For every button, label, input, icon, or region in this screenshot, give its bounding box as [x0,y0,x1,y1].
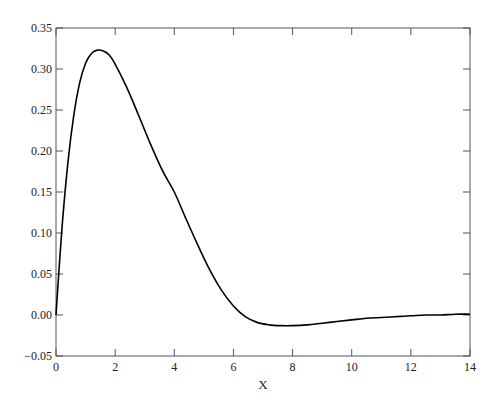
tick-labels: 02468101214−0.050.000.050.100.150.200.25… [24,21,476,374]
y-tick-label: 0.00 [31,308,52,322]
x-tick-label: 12 [405,360,417,374]
y-tick-label: −0.05 [24,349,52,363]
x-axis-label: X [258,377,268,392]
y-tick-label: 0.05 [31,267,52,281]
x-tick-label: 6 [230,360,236,374]
x-tick-label: 8 [290,360,296,374]
y-tick-label: 0.30 [31,62,52,76]
x-tick-label: 14 [464,360,476,374]
x-tick-label: 2 [112,360,118,374]
x-tick-label: 10 [346,360,358,374]
x-tick-label: 0 [53,360,59,374]
line-chart: 02468101214−0.050.000.050.100.150.200.25… [0,0,500,400]
y-tick-label: 0.20 [31,144,52,158]
y-tick-label: 0.25 [31,103,52,117]
data-line [56,50,470,326]
y-tick-label: 0.15 [31,185,52,199]
y-tick-label: 0.35 [31,21,52,35]
axis-ticks [56,28,470,356]
y-tick-label: 0.10 [31,226,52,240]
plot-frame [56,28,470,356]
x-tick-label: 4 [171,360,177,374]
